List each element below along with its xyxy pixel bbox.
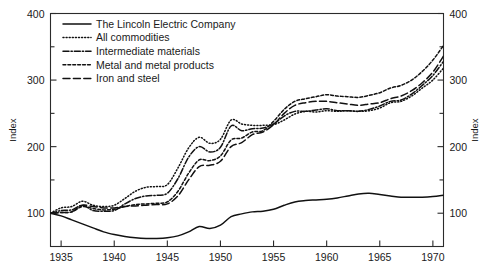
x-tick-label: 1955: [262, 251, 286, 263]
x-tick-label: 1950: [209, 251, 233, 263]
x-tick-label: 1940: [103, 251, 127, 263]
x-tick-label: 1935: [49, 251, 73, 263]
y-tick-label-left: 200: [27, 141, 45, 153]
y-axis-right-ticks: 100200300400: [438, 8, 468, 220]
y-axis-label-left-text: Index: [7, 118, 18, 141]
x-axis-ticks: 19351940194519501955196019651970: [49, 241, 444, 263]
y-tick-label-left: 300: [27, 74, 45, 86]
y-tick-label-left: 400: [27, 8, 45, 20]
y-tick-label-right: 100: [450, 207, 468, 219]
chart-legend: The Lincoln Electric CompanyAll commodit…: [63, 18, 236, 84]
x-tick-label: 1970: [421, 251, 445, 263]
legend-label-3: Metal and metal products: [96, 59, 214, 71]
y-tick-label-right: 300: [450, 74, 468, 86]
x-tick-label: 1965: [368, 251, 392, 263]
y-axis-label-right-text: Index: [469, 118, 480, 141]
series-line-0: [51, 193, 444, 238]
y-tick-label-left: 100: [27, 207, 45, 219]
y-tick-label-right: 200: [450, 141, 468, 153]
y-axis-right-title: Index: [469, 118, 480, 141]
x-tick-label: 1945: [156, 251, 180, 263]
legend-label-2: Intermediate materials: [96, 45, 200, 57]
y-axis-left-ticks: 100200300400: [27, 8, 57, 220]
legend-label-4: Iron and steel: [96, 72, 160, 84]
index-line-chart: 100200300400 100200300400 19351940194519…: [0, 0, 491, 273]
legend-label-0: The Lincoln Electric Company: [96, 18, 236, 30]
chart-container: 100200300400 100200300400 19351940194519…: [0, 0, 491, 273]
y-axis-left-title: Index: [7, 118, 18, 141]
legend-label-1: All commodities: [96, 31, 170, 43]
x-tick-label: 1960: [315, 251, 339, 263]
y-tick-label-right: 400: [450, 8, 468, 20]
